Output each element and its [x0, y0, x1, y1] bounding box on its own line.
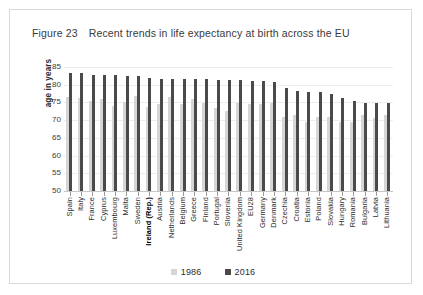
bar-group[interactable]	[382, 67, 393, 191]
x-axis-label-poland: Poland	[316, 197, 323, 221]
x-axis-label-finland: Finland	[202, 197, 209, 222]
x-tickmark	[331, 192, 332, 196]
x-axis-label-austria: Austria	[157, 197, 164, 221]
figure-title: Figure 23Recent trends in life expectanc…	[32, 27, 350, 39]
x-label-cell: Finland	[200, 197, 211, 263]
chart-legend: 19862016	[23, 267, 403, 277]
bar-group[interactable]	[291, 67, 302, 191]
bar-group[interactable]	[155, 67, 166, 191]
x-axis-label-eu28: EU28	[247, 197, 254, 216]
bar-group[interactable]	[246, 67, 257, 191]
bar-group[interactable]	[336, 67, 347, 191]
bar-2016[interactable]	[285, 88, 288, 191]
bar-group[interactable]	[121, 67, 132, 191]
bar-group[interactable]	[98, 67, 109, 191]
x-tickmark	[183, 192, 184, 196]
bar-2016[interactable]	[273, 82, 276, 191]
y-axis-tick-label: 50	[39, 187, 61, 195]
x-axis-label-greece: Greece	[191, 197, 198, 222]
bar-group[interactable]	[280, 67, 291, 191]
bar-group[interactable]	[132, 67, 143, 191]
bar-2016[interactable]	[375, 103, 378, 191]
x-label-cell: Italy	[75, 197, 86, 263]
bar-2016[interactable]	[228, 80, 231, 191]
bar-group[interactable]	[211, 67, 222, 191]
bar-group[interactable]	[302, 67, 313, 191]
x-tickmark-cell	[280, 192, 291, 196]
x-tickmark	[138, 192, 139, 196]
legend-swatch-icon	[171, 269, 177, 275]
x-label-cell: Slovenia	[223, 197, 234, 263]
legend-label: 1986	[181, 267, 202, 277]
bar-2016[interactable]	[262, 81, 265, 191]
x-axis-tickmarks	[64, 192, 393, 196]
legend-item-2016[interactable]: 2016	[225, 267, 256, 277]
x-label-cell: Ireland (Rep.)	[143, 197, 154, 263]
bar-2016[interactable]	[92, 75, 95, 191]
bar-2016[interactable]	[148, 78, 151, 191]
legend-item-1986[interactable]: 1986	[171, 267, 202, 277]
bar-group[interactable]	[325, 67, 336, 191]
x-label-cell: Poland	[314, 197, 325, 263]
bar-2016[interactable]	[194, 79, 197, 191]
x-axis-label-sweden: Sweden	[134, 197, 141, 224]
x-tickmark	[160, 192, 161, 196]
bar-2016[interactable]	[205, 79, 208, 191]
bar-2016[interactable]	[69, 73, 72, 191]
bar-2016[interactable]	[171, 79, 174, 191]
legend-label: 2016	[235, 267, 256, 277]
bar-group[interactable]	[370, 67, 381, 191]
bar-group[interactable]	[257, 67, 268, 191]
bar-group[interactable]	[234, 67, 245, 191]
bar-group[interactable]	[87, 67, 98, 191]
bar-2016[interactable]	[341, 98, 344, 191]
x-label-cell: Czechia	[280, 197, 291, 263]
bar-group[interactable]	[177, 67, 188, 191]
y-axis-tick-label: 55	[39, 169, 61, 177]
x-axis-label-slovakia: Slovakia	[327, 197, 334, 226]
bar-group[interactable]	[359, 67, 370, 191]
bar-2016[interactable]	[387, 103, 390, 191]
bar-group[interactable]	[189, 67, 200, 191]
x-tickmark	[319, 192, 320, 196]
figure-container: Figure 23Recent trends in life expectanc…	[9, 9, 412, 284]
bar-2016[interactable]	[217, 80, 220, 191]
x-tickmark	[342, 192, 343, 196]
bar-2016[interactable]	[160, 79, 163, 191]
y-axis-tick-labels: 8580757065605550	[39, 67, 61, 191]
bar-2016[interactable]	[296, 91, 299, 191]
bar-2016[interactable]	[330, 94, 333, 191]
y-axis-tick-label: 65	[39, 134, 61, 142]
bar-group[interactable]	[200, 67, 211, 191]
bar-group[interactable]	[348, 67, 359, 191]
bar-group[interactable]	[143, 67, 154, 191]
bar-2016[interactable]	[103, 75, 106, 191]
bar-2016[interactable]	[364, 103, 367, 191]
x-tickmark	[104, 192, 105, 196]
x-tickmark-cell	[234, 192, 245, 196]
bar-group[interactable]	[64, 67, 75, 191]
bar-2016[interactable]	[251, 81, 254, 191]
bar-2016[interactable]	[114, 75, 117, 191]
bar-2016[interactable]	[137, 76, 140, 191]
bar-group[interactable]	[223, 67, 234, 191]
x-axis-label-lithuania: Lithuania	[384, 197, 391, 228]
bar-2016[interactable]	[126, 76, 129, 191]
x-tickmark-cell	[155, 192, 166, 196]
x-axis-label-hungary: Hungary	[338, 197, 345, 226]
bar-group[interactable]	[109, 67, 120, 191]
bar-2016[interactable]	[307, 92, 310, 191]
bar-group[interactable]	[166, 67, 177, 191]
x-tickmark-cell	[336, 192, 347, 196]
bar-group[interactable]	[314, 67, 325, 191]
x-tickmark-cell	[121, 192, 132, 196]
bar-2016[interactable]	[183, 79, 186, 191]
bar-2016[interactable]	[80, 73, 83, 191]
legend-swatch-icon	[225, 269, 231, 275]
bar-group[interactable]	[268, 67, 279, 191]
bar-2016[interactable]	[353, 101, 356, 191]
bar-group[interactable]	[75, 67, 86, 191]
bar-2016[interactable]	[319, 92, 322, 191]
x-axis-label-spain: Spain	[66, 197, 73, 216]
bar-2016[interactable]	[239, 80, 242, 191]
